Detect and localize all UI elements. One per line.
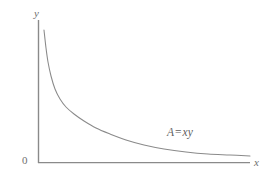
curve-equation-annotation: A=xy — [167, 127, 193, 139]
annotation-operator: = — [174, 126, 183, 138]
annotation-rhs: xy — [183, 126, 193, 138]
plot-canvas — [0, 0, 273, 183]
annotation-lhs: A — [167, 126, 174, 138]
x-axis-label: x — [254, 157, 259, 168]
y-axis-label: y — [34, 8, 39, 19]
origin-label: 0 — [22, 155, 28, 166]
hyperbola-figure: y x 0 A=xy — [0, 0, 273, 183]
hyperbola-curve — [44, 30, 250, 156]
